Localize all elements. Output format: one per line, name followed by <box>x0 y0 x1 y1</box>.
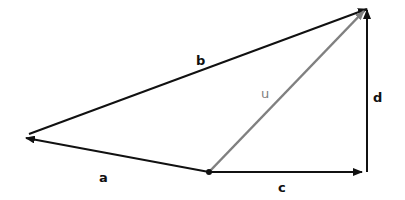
vector-b-arrow <box>29 9 367 134</box>
label-d: d <box>373 91 382 104</box>
vector-u-arrow <box>209 11 364 172</box>
vector-a-arrow <box>26 138 209 172</box>
vector-diagram <box>0 0 405 200</box>
label-c: c <box>278 181 286 194</box>
label-b: b <box>196 54 205 67</box>
label-u: u <box>261 87 269 100</box>
label-a: a <box>99 171 108 184</box>
origin-point <box>206 169 212 175</box>
